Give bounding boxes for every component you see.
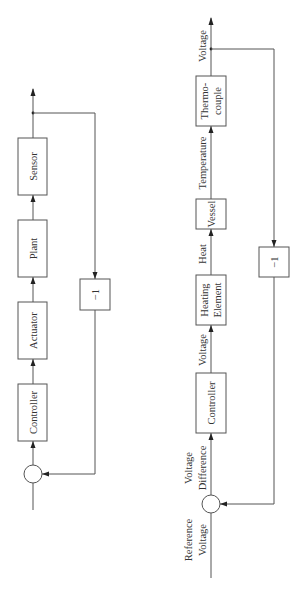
actuator-label: Actuator (28, 312, 39, 349)
feedback-line-bottom (220, 277, 274, 504)
heating-element-label-line2: Element (212, 282, 223, 317)
arrow-into-gain (93, 272, 98, 279)
heat-label: Heat (197, 244, 208, 264)
thermocouple-label-line1: Thermo- (199, 82, 210, 119)
controller-label: Controller (28, 390, 39, 434)
arrow-into-gain (272, 240, 277, 247)
arrow-into-plant (31, 277, 36, 284)
arrow-into-sensor (31, 195, 36, 202)
error-label-line2: Difference (197, 445, 208, 490)
controller-label: Controller (206, 381, 217, 425)
thermocouple-label-line2: couple (212, 87, 223, 115)
plant-label: Plant (28, 238, 39, 260)
heating-feedback-diagram: Reference Voltage Voltage Difference Con… (183, 17, 289, 578)
arrow-into-thermocouple (209, 126, 214, 133)
output-arrow (31, 88, 36, 96)
reference-label-line1: Reference (183, 518, 194, 561)
arrow-into-actuator (31, 359, 36, 366)
sensor-label: Sensor (28, 152, 39, 181)
summing-junction (24, 465, 42, 483)
block-diagrams: Controller Actuator Plant Sensor −1 Refe… (0, 0, 305, 597)
reference-label-line2: Voltage (197, 524, 208, 556)
arrow-into-heater (209, 325, 214, 332)
summing-junction (202, 495, 220, 513)
arrow-into-controller (31, 441, 36, 448)
arrow-into-summer-feedback (220, 502, 227, 507)
feedback-line-bottom (42, 310, 95, 474)
arrow-into-vessel (209, 229, 214, 236)
output-arrow (209, 17, 214, 25)
vessel-label: Vessel (206, 201, 217, 228)
temperature-label: Temperature (197, 136, 208, 189)
generic-feedback-diagram: Controller Actuator Plant Sensor −1 (18, 88, 110, 510)
gain-label: −1 (269, 256, 280, 267)
arrow-into-summer-feedback (42, 472, 49, 477)
error-label-line1: Voltage (183, 452, 194, 484)
gain-label: −1 (90, 289, 101, 300)
output-voltage-label: Voltage (197, 30, 208, 62)
controller-output-label: Voltage (197, 334, 208, 366)
arrow-into-controller (209, 433, 214, 440)
heating-element-label-line1: Heating (199, 283, 210, 317)
